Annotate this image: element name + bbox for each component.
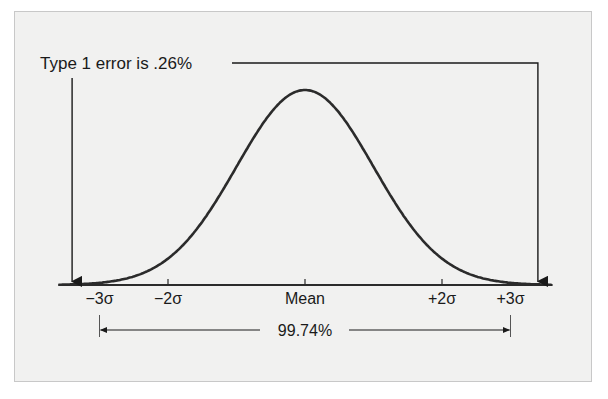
annotation-leader-right [232, 63, 538, 281]
axis-tick-label: +3σ [496, 290, 524, 307]
axis-tick-label: −2σ [154, 290, 182, 307]
annotation-label: Type 1 error is .26% [40, 54, 192, 73]
central-interval-label: 99.74% [278, 322, 332, 339]
axis-tick-label: Mean [285, 290, 325, 307]
normal-distribution-chart: −3σ−2σMean+2σ+3σ Type 1 error is .26% 99… [0, 0, 608, 399]
normal-curve [58, 90, 551, 285]
axis-tick-label: +2σ [428, 290, 456, 307]
axis-tick-label: −3σ [85, 290, 113, 307]
